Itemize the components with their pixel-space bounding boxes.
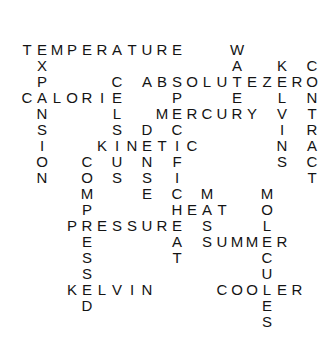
grid-letter: U [215,234,230,250]
grid-letter: E [245,74,260,90]
grid-letter: U [140,42,155,58]
grid-letter: C [110,74,125,90]
grid-letter: T [125,42,140,58]
grid-letter: D [80,298,95,314]
grid-letter: E [275,282,290,298]
grid-letter: L [275,90,290,106]
grid-letter: I [170,138,185,154]
grid-letter: V [110,282,125,298]
grid-letter: C [80,154,95,170]
grid-letter: U [260,266,275,282]
grid-letter: D [140,122,155,138]
grid-letter: V [275,106,290,122]
grid-letter: S [110,122,125,138]
grid-letter: I [110,138,125,154]
grid-letter: E [35,42,50,58]
grid-letter: K [275,58,290,74]
grid-letter: R [290,282,305,298]
grid-letter: Y [245,106,260,122]
grid-letter: O [65,90,80,106]
grid-letter: S [140,170,155,186]
grid-letter: R [80,90,95,106]
grid-letter: T [230,74,245,90]
grid-letter: U [215,74,230,90]
grid-letter: E [170,42,185,58]
grid-letter: Z [260,74,275,90]
grid-letter: R [290,74,305,90]
grid-letter: I [275,122,290,138]
grid-letter: E [80,282,95,298]
grid-letter: C [185,138,200,154]
grid-letter: T [155,138,170,154]
grid-letter: M [155,106,170,122]
grid-letter: U [110,154,125,170]
grid-letter: P [80,202,95,218]
grid-letter: S [260,314,275,330]
grid-letter: L [200,74,215,90]
grid-letter: N [140,282,155,298]
grid-letter: R [95,42,110,58]
grid-letter: O [35,154,50,170]
grid-letter: U [140,218,155,234]
grid-letter: R [275,234,290,250]
grid-letter: L [110,106,125,122]
grid-letter: O [185,74,200,90]
grid-letter: I [125,282,140,298]
grid-letter: R [305,122,320,138]
grid-letter: M [80,186,95,202]
grid-letter: M [200,186,215,202]
grid-letter: S [170,74,185,90]
grid-letter: E [275,74,290,90]
grid-letter: S [275,154,290,170]
grid-letter: A [200,202,215,218]
grid-letter: E [260,298,275,314]
grid-letter: R [185,106,200,122]
grid-letter: L [260,218,275,234]
grid-letter: O [80,170,95,186]
grid-letter: T [170,250,185,266]
grid-letter: S [110,218,125,234]
grid-letter: R [155,42,170,58]
grid-letter: A [170,234,185,250]
grid-letter: E [170,218,185,234]
grid-letter: R [230,106,245,122]
grid-letter: M [245,234,260,250]
grid-letter: M [260,186,275,202]
grid-letter: S [125,218,140,234]
grid-letter: N [275,138,290,154]
grid-letter: T [305,106,320,122]
grid-letter: W [230,42,245,58]
grid-letter: N [140,154,155,170]
grid-letter: R [155,218,170,234]
grid-letter: L [95,282,110,298]
grid-letter: A [305,138,320,154]
grid-letter: S [35,122,50,138]
grid-letter: M [50,42,65,58]
grid-letter: A [140,74,155,90]
grid-letter: E [95,218,110,234]
grid-letter: S [80,266,95,282]
grid-letter: I [35,138,50,154]
grid-letter: L [260,282,275,298]
grid-letter: N [35,106,50,122]
grid-letter: E [140,186,155,202]
grid-letter: O [305,74,320,90]
grid-letter: A [110,42,125,58]
grid-letter: C [215,282,230,298]
grid-letter: F [170,154,185,170]
grid-letter: N [305,90,320,106]
grid-letter: C [200,106,215,122]
grid-letter: X [35,58,50,74]
grid-letter: O [230,282,245,298]
grid-letter: S [200,234,215,250]
grid-letter: I [95,90,110,106]
grid-letter: C [170,122,185,138]
grid-letter: A [35,90,50,106]
grid-letter: C [260,250,275,266]
grid-letter: S [200,218,215,234]
grid-letter: P [170,90,185,106]
grid-letter: C [20,90,35,106]
grid-letter: E [170,106,185,122]
grid-letter: H [170,202,185,218]
grid-letter: S [80,250,95,266]
